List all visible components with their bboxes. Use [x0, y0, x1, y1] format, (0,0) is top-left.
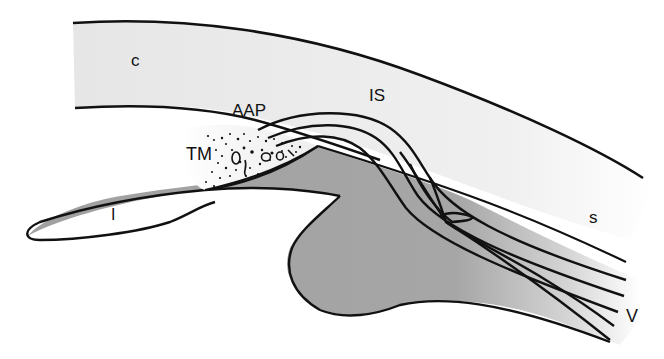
sclera-label: s: [589, 209, 598, 226]
aap-label: AAP: [232, 102, 266, 119]
is-label: IS: [369, 87, 385, 104]
cornea-label: c: [131, 52, 140, 69]
eye-angle-diagram: c AAP IS TM I s V: [0, 0, 664, 359]
iris-label: I: [111, 207, 115, 223]
veins-label: V: [626, 307, 638, 325]
tm-label: TM: [186, 145, 212, 163]
